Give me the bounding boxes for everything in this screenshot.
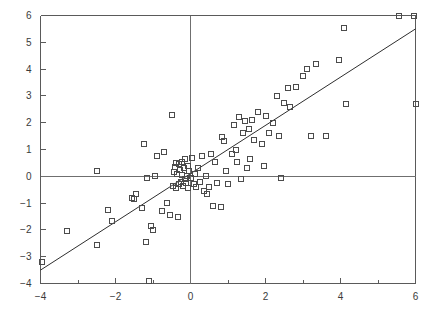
data-point-marker: [176, 215, 181, 220]
data-point-marker: [267, 131, 272, 136]
data-point-marker: [337, 58, 342, 63]
y-tick-label: 5: [26, 37, 32, 48]
data-point-marker: [248, 157, 253, 162]
data-point-marker: [275, 94, 280, 99]
data-point-marker: [215, 181, 220, 186]
data-point-marker: [142, 142, 147, 147]
y-tick-label: 4: [26, 64, 32, 75]
y-tick-label: 3: [26, 90, 32, 101]
data-point-marker: [305, 67, 310, 72]
data-point-marker: [232, 123, 237, 128]
data-point-marker: [344, 102, 349, 107]
data-point-marker: [264, 114, 269, 119]
data-point-marker: [245, 166, 250, 171]
data-point-marker: [211, 204, 216, 209]
data-point-marker: [200, 154, 205, 159]
data-point-marker: [239, 177, 244, 182]
y-tick-label: 2: [26, 117, 32, 128]
x-tick-label: 2: [263, 291, 269, 302]
data-point-marker: [250, 118, 255, 123]
data-point-marker: [243, 119, 248, 124]
data-point-marker: [301, 74, 306, 79]
data-point-marker: [207, 185, 212, 190]
y-tick-label: 6: [26, 10, 32, 21]
data-point-marker: [95, 169, 100, 174]
data-point-marker: [106, 208, 111, 213]
data-point-marker: [209, 152, 214, 157]
x-tick-label: 4: [338, 291, 344, 302]
data-point-marker: [342, 26, 347, 31]
y-axis-tick-labels: −4−3−2−10123456: [20, 10, 32, 289]
regression-line: [41, 29, 416, 270]
data-point-marker: [324, 134, 329, 139]
x-tick-label: −4: [35, 291, 47, 302]
x-axis-tick-labels: −4−20246: [35, 291, 419, 302]
data-point-marker: [260, 142, 265, 147]
y-tick-label: −2: [20, 224, 32, 235]
y-tick-label: 0: [26, 171, 32, 182]
data-point-marker: [147, 279, 152, 284]
data-point-marker: [165, 201, 170, 206]
data-point-marker: [213, 160, 218, 165]
data-point-marker: [237, 115, 242, 120]
x-tick-label: 0: [188, 291, 194, 302]
x-tick-label: −2: [110, 291, 122, 302]
data-point-marker: [282, 101, 287, 106]
y-tick-label: −3: [20, 251, 32, 262]
data-point-marker: [144, 240, 149, 245]
data-point-marker: [314, 62, 319, 67]
data-point-marker: [262, 164, 267, 169]
data-point-marker: [219, 205, 224, 210]
data-point-marker: [256, 110, 261, 115]
data-point-marker: [198, 180, 203, 185]
y-tick-label: 1: [26, 144, 32, 155]
data-point-marker: [247, 127, 252, 132]
data-point-marker: [286, 86, 291, 91]
data-point-marker: [224, 169, 229, 174]
data-point-marker: [241, 131, 246, 136]
data-point-marker: [95, 243, 100, 248]
data-point-marker: [309, 134, 314, 139]
y-tick-label: −1: [20, 198, 32, 209]
data-point-marker: [277, 134, 282, 139]
data-point-marker: [226, 182, 231, 187]
data-point-marker: [252, 138, 257, 143]
data-point-marker: [162, 150, 167, 155]
data-point-marker: [235, 160, 240, 165]
plot-canvas: −4−20246 −4−3−2−10123456: [0, 0, 435, 311]
data-point-marker: [168, 213, 173, 218]
scatter-plot-figure: −4−20246 −4−3−2−10123456: [0, 0, 435, 311]
data-point-marker: [155, 154, 160, 159]
data-point-marker: [160, 209, 165, 214]
y-tick-label: −4: [20, 278, 32, 289]
data-point-marker: [294, 85, 299, 90]
data-point-marker: [170, 113, 175, 118]
data-point-marker: [65, 229, 70, 234]
data-point-marker: [186, 186, 191, 191]
regression-line: [41, 29, 416, 270]
x-tick-label: 6: [413, 291, 419, 302]
